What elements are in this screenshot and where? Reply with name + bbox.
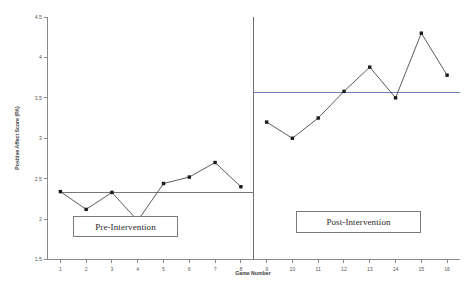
y-axis-title: Positive Affect Score (PA)	[14, 106, 20, 170]
data-point-marker	[162, 182, 165, 185]
y-axis-tick-label: 1.5	[35, 256, 42, 262]
data-point-marker	[342, 90, 345, 93]
y-axis-tick-label: 2.5	[35, 176, 42, 182]
y-axis-ticks	[44, 17, 48, 260]
y-axis-tick-labels: 1.522.533.544.5	[35, 14, 42, 263]
data-point-marker	[188, 175, 191, 178]
x-axis-title: Game Number	[235, 270, 270, 276]
series-line-pre-intervention	[60, 163, 240, 221]
data-point-marker	[265, 120, 268, 123]
y-axis-tick-label: 2	[39, 216, 42, 222]
x-axis-tick-label: 3	[111, 266, 114, 272]
data-point-marker	[213, 161, 216, 164]
mean-lines-group	[60, 93, 460, 192]
x-axis-tick-label: 12	[341, 266, 347, 272]
y-axis-tick-label: 3	[39, 135, 42, 141]
phase-label-pre-text: Pre-Intervention	[95, 222, 156, 232]
x-axis-tick-label: 14	[393, 266, 399, 272]
series-line-post-intervention	[267, 33, 447, 138]
data-point-marker	[59, 190, 62, 193]
x-axis-tick-label: 15	[418, 266, 424, 272]
x-axis-tick-label: 7	[214, 266, 217, 272]
data-point-marker	[368, 65, 371, 68]
data-point-marker	[445, 74, 448, 77]
y-axis-tick-label: 3.5	[35, 95, 42, 101]
data-point-marker	[239, 185, 242, 188]
chart-figure: 1.522.533.544.5 12345678910111213141516 …	[0, 0, 467, 289]
x-axis-tick-label: 6	[188, 266, 191, 272]
x-axis-tick-label: 11	[316, 266, 321, 272]
y-axis-tick-label: 4.5	[35, 14, 42, 20]
data-point-marker	[84, 208, 87, 211]
data-point-marker	[110, 191, 113, 194]
data-point-marker	[291, 137, 294, 140]
phase-label-box-pre: Pre-Intervention	[73, 216, 178, 237]
x-axis-ticks	[60, 260, 447, 264]
phase-label-post-text: Post-Intervention	[326, 217, 390, 227]
x-axis-tick-label: 4	[136, 266, 139, 272]
x-axis-tick-label: 2	[85, 266, 88, 272]
phase-label-box-post: Post-Intervention	[296, 211, 421, 233]
x-axis-tick-label: 13	[367, 266, 373, 272]
chart-plot-area: 1.522.533.544.5 12345678910111213141516 …	[0, 0, 467, 289]
x-axis-tick-label: 16	[444, 266, 450, 272]
x-axis-tick-label: 5	[162, 266, 165, 272]
data-point-marker	[420, 31, 423, 34]
x-axis-tick-label: 1	[59, 266, 62, 272]
y-axis-tick-label: 4	[39, 54, 42, 60]
x-axis-tick-label: 10	[290, 266, 296, 272]
data-point-marker	[394, 96, 397, 99]
data-point-marker	[317, 116, 320, 119]
